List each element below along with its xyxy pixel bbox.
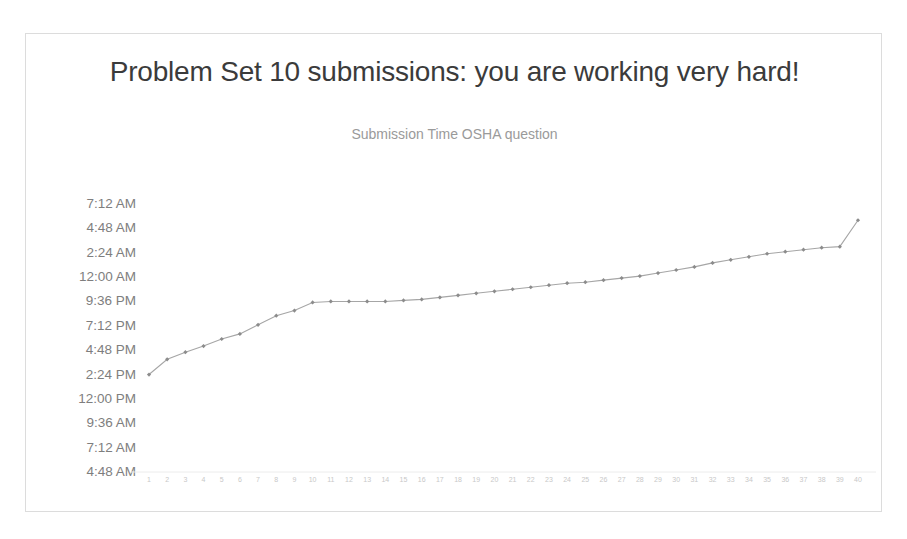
x-axis-tick-label: 8 <box>274 476 278 483</box>
x-axis-tick-label: 15 <box>400 476 408 483</box>
data-point-marker <box>256 323 260 327</box>
x-axis-tick-label: 11 <box>327 476 334 483</box>
x-axis-tick-label: 4 <box>202 476 206 483</box>
x-axis-tick-label: 9 <box>292 476 296 483</box>
y-axis-tick-label: 9:36 PM <box>36 294 136 308</box>
data-point-marker <box>456 293 460 297</box>
x-axis-tick-label: 37 <box>800 476 808 483</box>
x-axis-tick-label: 33 <box>727 476 735 483</box>
x-axis-tick-label: 1 <box>147 476 151 483</box>
data-point-marker <box>201 344 205 348</box>
data-point-marker <box>401 298 405 302</box>
x-axis-tick-label: 24 <box>563 476 571 483</box>
x-axis-tick-label: 19 <box>472 476 480 483</box>
data-point-marker <box>601 278 605 282</box>
data-point-marker <box>220 337 224 341</box>
data-point-marker <box>747 255 751 259</box>
data-point-marker <box>783 250 787 254</box>
plot-area: 7:12 AM4:48 AM2:24 AM12:00 AM9:36 PM7:12… <box>26 114 883 513</box>
x-axis-tick-label: 20 <box>491 476 499 483</box>
data-point-marker <box>729 258 733 262</box>
data-point-marker <box>238 332 242 336</box>
y-axis-tick-label: 4:48 AM <box>36 465 136 479</box>
x-axis-tick-label: 28 <box>636 476 644 483</box>
data-point-marker <box>583 280 587 284</box>
slide-frame: Problem Set 10 submissions: you are work… <box>25 33 882 512</box>
data-point-marker <box>529 285 533 289</box>
x-axis-tick-label: 18 <box>454 476 462 483</box>
x-axis-tick-label: 10 <box>309 476 317 483</box>
data-point-marker <box>620 276 624 280</box>
y-axis: 7:12 AM4:48 AM2:24 AM12:00 AM9:36 PM7:12… <box>26 114 136 513</box>
x-axis-tick-label: 22 <box>527 476 535 483</box>
data-point-marker <box>329 299 333 303</box>
x-axis-tick-label: 17 <box>436 476 444 483</box>
data-point-marker <box>547 283 551 287</box>
data-point-marker <box>510 287 514 291</box>
x-axis-tick-label: 39 <box>836 476 844 483</box>
y-axis-tick-label: 9:36 AM <box>36 416 136 430</box>
x-axis-tick-label: 32 <box>709 476 717 483</box>
x-axis-tick-label: 21 <box>509 476 517 483</box>
data-point-marker <box>638 274 642 278</box>
x-axis-tick-label: 38 <box>818 476 826 483</box>
x-axis-tick-label: 30 <box>672 476 680 483</box>
y-axis-tick-label: 12:00 AM <box>36 270 136 284</box>
y-axis-tick-label: 12:00 PM <box>36 392 136 406</box>
x-axis-tick-label: 36 <box>781 476 789 483</box>
data-point-markers <box>147 218 860 377</box>
data-point-marker <box>765 252 769 256</box>
data-point-marker <box>801 248 805 252</box>
y-axis-tick-label: 7:12 PM <box>36 319 136 333</box>
data-point-marker <box>438 295 442 299</box>
x-axis: 1234567891011121314151617181920212223242… <box>131 476 876 492</box>
x-axis-tick-label: 13 <box>363 476 371 483</box>
data-series-line <box>149 220 858 374</box>
x-axis-tick-label: 16 <box>418 476 426 483</box>
data-point-marker <box>347 299 351 303</box>
data-point-marker <box>492 289 496 293</box>
data-point-marker <box>674 268 678 272</box>
data-point-marker <box>311 300 315 304</box>
x-axis-tick-label: 34 <box>745 476 753 483</box>
data-point-marker <box>474 291 478 295</box>
x-axis-tick-label: 7 <box>256 476 260 483</box>
x-axis-tick-label: 23 <box>545 476 553 483</box>
data-point-marker <box>656 271 660 275</box>
data-point-marker <box>183 350 187 354</box>
x-axis-tick-label: 27 <box>618 476 626 483</box>
x-axis-tick-label: 29 <box>654 476 662 483</box>
x-axis-tick-label: 26 <box>600 476 608 483</box>
data-point-marker <box>292 308 296 312</box>
x-axis-tick-label: 35 <box>763 476 771 483</box>
y-axis-tick-label: 7:12 AM <box>36 441 136 455</box>
x-axis-tick-label: 14 <box>381 476 389 483</box>
y-axis-tick-label: 4:48 PM <box>36 343 136 357</box>
x-axis-tick-label: 5 <box>220 476 224 483</box>
chart-container: Submission Time OSHA question 7:12 AM4:4… <box>26 114 883 513</box>
line-chart-svg <box>131 114 876 513</box>
data-point-marker <box>820 246 824 250</box>
y-axis-tick-label: 2:24 AM <box>36 246 136 260</box>
data-point-marker <box>710 261 714 265</box>
data-point-marker <box>420 297 424 301</box>
x-axis-tick-label: 12 <box>345 476 353 483</box>
x-axis-tick-label: 3 <box>183 476 187 483</box>
data-point-marker <box>365 299 369 303</box>
page-title: Problem Set 10 submissions: you are work… <box>26 56 883 88</box>
x-axis-tick-label: 6 <box>238 476 242 483</box>
y-axis-tick-label: 4:48 AM <box>36 221 136 235</box>
data-point-marker <box>383 299 387 303</box>
data-point-marker <box>692 265 696 269</box>
x-axis-tick-label: 25 <box>581 476 589 483</box>
data-point-marker <box>274 314 278 318</box>
y-axis-tick-label: 2:24 PM <box>36 368 136 382</box>
y-axis-tick-label: 7:12 AM <box>36 197 136 211</box>
x-axis-tick-label: 31 <box>690 476 698 483</box>
x-axis-tick-label: 40 <box>854 476 862 483</box>
x-axis-tick-label: 2 <box>165 476 169 483</box>
data-point-marker <box>565 281 569 285</box>
